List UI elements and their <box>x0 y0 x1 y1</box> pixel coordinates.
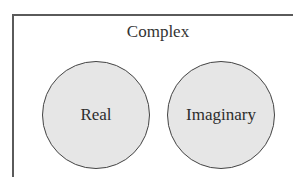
set-imaginary-label: Imaginary <box>186 105 256 125</box>
container-label: Complex <box>0 22 293 42</box>
set-real-circle: Real <box>42 61 150 169</box>
frame-top-border <box>12 14 293 16</box>
set-imaginary-circle: Imaginary <box>167 61 275 169</box>
set-real-label: Real <box>80 105 111 125</box>
